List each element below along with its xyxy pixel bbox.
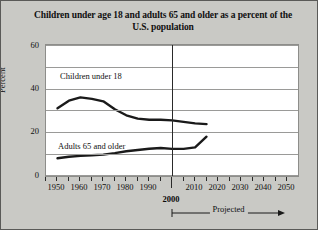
year-2000-divider bbox=[172, 45, 173, 176]
divider-tick-2000 bbox=[171, 177, 172, 188]
x-tick-1975 bbox=[114, 177, 115, 181]
x-tick-1985 bbox=[137, 177, 138, 181]
divider-year-label: 2000 bbox=[156, 194, 186, 204]
x-tick-1960 bbox=[79, 177, 80, 181]
y-tick-20: 20 bbox=[23, 127, 39, 135]
x-tick-2010 bbox=[194, 177, 195, 181]
x-tick-2015 bbox=[206, 177, 207, 181]
chart-figure: Children under age 18 and adults 65 and … bbox=[0, 0, 318, 230]
x-tick-2020 bbox=[217, 177, 218, 181]
projected-range-indicator: Projected bbox=[171, 207, 286, 219]
x-tick-1945 bbox=[45, 177, 46, 181]
plot-area: Children under 18 Adults 65 and older bbox=[45, 44, 299, 177]
series-label-children: Children under 18 bbox=[60, 71, 122, 81]
x-tick-1955 bbox=[68, 177, 69, 181]
x-tick-1965 bbox=[91, 177, 92, 181]
x-tick-2040 bbox=[263, 177, 264, 181]
x-tick-2005 bbox=[183, 177, 184, 181]
y-tick-40: 40 bbox=[23, 84, 39, 92]
y-tick-60: 60 bbox=[23, 41, 39, 49]
x-tick-2045 bbox=[275, 177, 276, 181]
y-axis-label: Percent bbox=[0, 68, 7, 94]
x-label-1990: 1990 bbox=[135, 182, 161, 192]
projected-label: Projected bbox=[209, 204, 247, 214]
x-tick-2035 bbox=[252, 177, 253, 181]
x-tick-1970 bbox=[102, 177, 103, 181]
y-tick-0: 0 bbox=[23, 171, 39, 179]
x-tick-1950 bbox=[56, 177, 57, 181]
x-tick-2050 bbox=[286, 177, 287, 181]
chart-title: Children under age 18 and adults 65 and … bbox=[29, 9, 297, 33]
x-tick-1990 bbox=[148, 177, 149, 181]
x-tick-1995 bbox=[160, 177, 161, 181]
x-tick-2030 bbox=[240, 177, 241, 181]
x-tick-2025 bbox=[229, 177, 230, 181]
x-label-2050: 2050 bbox=[273, 182, 299, 192]
x-tick-1980 bbox=[125, 177, 126, 181]
series-label-adults: Adults 65 and older bbox=[58, 141, 125, 151]
